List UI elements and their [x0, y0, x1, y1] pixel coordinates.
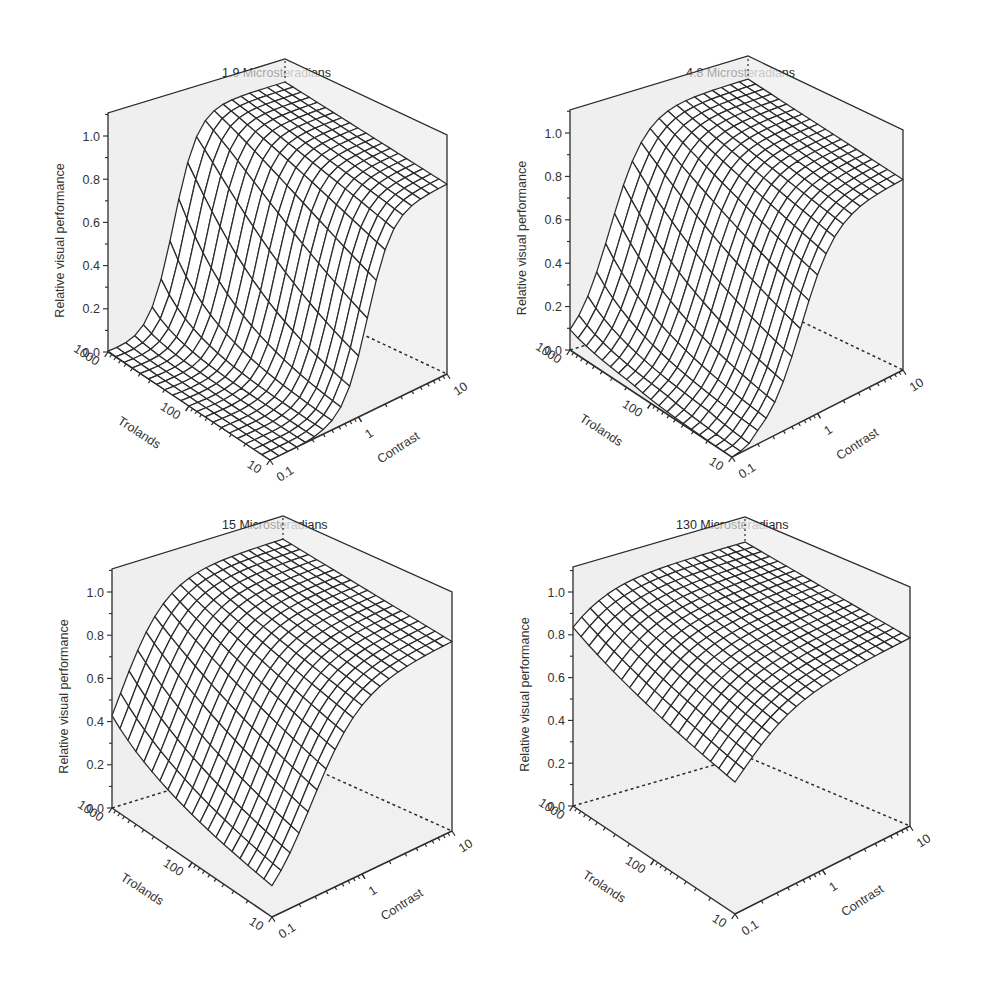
- trolands-tick-label: 100: [623, 853, 648, 876]
- z-axis-label: Relative visual performance: [518, 617, 532, 771]
- z-tick-label: 0.6: [548, 671, 565, 685]
- trolands-tick-label: 10: [710, 911, 729, 930]
- contrast-axis-label: Contrast: [839, 882, 887, 920]
- z-tick-label: 0.2: [548, 757, 565, 771]
- contrast-tick-label: 0.1: [739, 917, 761, 938]
- contrast-tick-label: 1: [827, 879, 840, 895]
- z-tick-label: 0.8: [548, 628, 565, 642]
- contrast-tick-label: 10: [914, 831, 933, 850]
- z-tick-label: 1.0: [548, 586, 565, 600]
- panel-130-microsteradians: 130 Microsteradians 0.00.20.40.60.81.010…: [0, 0, 985, 986]
- trolands-axis-label: Trolands: [580, 868, 628, 906]
- surface-plot-4: 0.00.20.40.60.81.01000100100.1110Relativ…: [0, 0, 985, 986]
- z-tick-label: 0.4: [548, 714, 565, 728]
